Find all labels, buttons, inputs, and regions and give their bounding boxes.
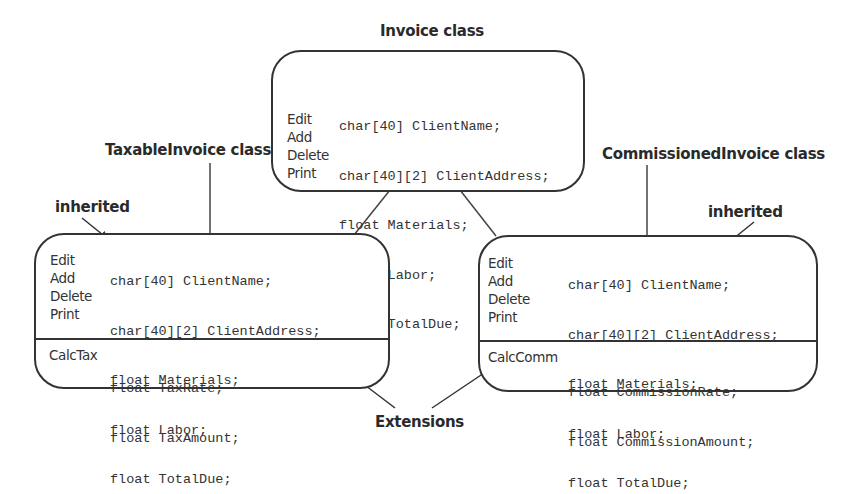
method-print: Print (488, 308, 530, 326)
commissioned-invoice-class-box: Edit Add Delete Print char[40] ClientNam… (478, 235, 818, 392)
commissioned-extension-fields: float CommissionRate; float CommissionAm… (568, 352, 754, 484)
field: float Materials; (339, 218, 550, 235)
method-delete: Delete (488, 290, 530, 308)
method-add: Add (488, 272, 530, 290)
extensions-label: Extensions (375, 413, 464, 431)
method-print: Print (287, 164, 329, 182)
taxable-extension-method: CalcTax (49, 346, 97, 364)
extension-divider (480, 340, 816, 342)
extension-divider (36, 338, 388, 340)
field: char[40] ClientName; (110, 274, 321, 291)
commissioned-extension-method: CalcComm (488, 348, 558, 366)
field: float CommissionAmount; (568, 435, 754, 452)
method-add: Add (50, 269, 92, 287)
taxable-methods: Edit Add Delete Print (50, 251, 92, 323)
field: char[40] ClientName; (568, 278, 779, 295)
inherited-label-left: inherited (55, 198, 130, 216)
method-add: Add (287, 128, 329, 146)
taxable-invoice-class-title: TaxableInvoice class (105, 141, 271, 159)
taxable-extension-fields: float TaxRate; float TaxAmount; (110, 348, 240, 480)
commissioned-methods: Edit Add Delete Print (488, 254, 530, 326)
invoice-class-box: Edit Add Delete Print char[40] ClientNam… (271, 50, 585, 192)
field: float CommissionRate; (568, 385, 754, 402)
invoice-class-title: Invoice class (380, 22, 484, 40)
method-print: Print (50, 305, 92, 323)
method-edit: Edit (50, 251, 92, 269)
field: float TaxRate; (110, 381, 240, 398)
method-delete: Delete (287, 146, 329, 164)
taxable-invoice-class-box: Edit Add Delete Print char[40] ClientNam… (34, 233, 390, 389)
field: char[40][2] ClientAddress; (339, 169, 550, 186)
invoice-methods: Edit Add Delete Print (287, 110, 329, 182)
field: char[40] ClientName; (339, 119, 550, 136)
method-edit: Edit (287, 110, 329, 128)
method-delete: Delete (50, 287, 92, 305)
field: float TaxAmount; (110, 431, 240, 448)
method-edit: Edit (488, 254, 530, 272)
inherited-label-right: inherited (708, 203, 783, 221)
commissioned-invoice-class-title: CommissionedInvoice class (602, 145, 825, 163)
